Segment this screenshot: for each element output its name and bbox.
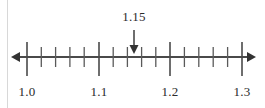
- tick-label-1-1: 1.1: [91, 84, 108, 100]
- number-line-figure: 1.15 1.0 1.1 1.2 1.3: [0, 0, 265, 108]
- tick-label-1-3: 1.3: [234, 84, 251, 100]
- axis-right-arrowhead: [247, 52, 256, 62]
- tick-label-1-2: 1.2: [162, 84, 179, 100]
- axis-left-arrowhead: [11, 52, 20, 62]
- tick-label-1-0: 1.0: [19, 84, 36, 100]
- annotation-arrow-head-icon: [130, 45, 139, 54]
- annotation-pointer-arrow: [130, 30, 139, 54]
- annotation-value-label: 1.15: [122, 9, 146, 25]
